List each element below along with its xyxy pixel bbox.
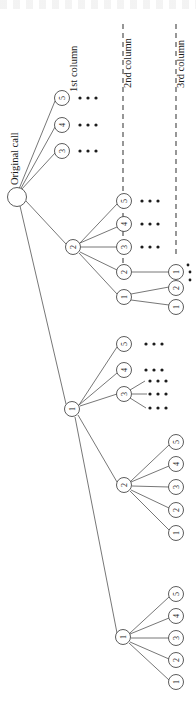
ellipsis-dot: [94, 96, 97, 99]
node-col2-lower-4[interactable]: 4: [117, 363, 132, 378]
node-label: 4: [120, 222, 129, 226]
edge-c1-1-to-c2b-2: [78, 415, 117, 482]
edge-c1-2-to-c2a-4: [80, 227, 117, 243]
ellipsis-dot: [164, 379, 167, 382]
node-label: 5: [58, 96, 67, 100]
ellipsis-dot: [160, 342, 163, 345]
node-label: 3: [120, 392, 129, 396]
edge-c2b-2-to-c3c-3: [132, 486, 169, 487]
node-col2-lower-2[interactable]: 2: [117, 478, 132, 493]
label-3rd-column: 3rd column: [175, 39, 186, 88]
page-header-strip: [0, 0, 196, 9]
edge-c2b-2-to-c3c-5: [131, 445, 169, 481]
ellipsis-dots: [78, 96, 191, 409]
node-col3-upper-1a[interactable]: 1: [169, 265, 184, 280]
node-col1-1[interactable]: 1: [65, 402, 80, 417]
node-label: 1: [172, 531, 181, 535]
edge-root-to-c1-2: [26, 201, 66, 244]
ellipsis-dot: [156, 406, 159, 409]
ellipsis-dot: [148, 379, 151, 382]
ellipsis-dot: [94, 149, 97, 152]
ellipsis-dot: [148, 245, 151, 248]
node-col1-2[interactable]: 2: [66, 240, 81, 255]
node-col1-4[interactable]: 4: [55, 118, 70, 133]
node-col3-mid-4[interactable]: 4: [169, 457, 184, 472]
ellipsis-dot: [144, 342, 147, 345]
ellipsis-dot: [148, 406, 151, 409]
node-col2-upper-1[interactable]: 1: [117, 290, 132, 305]
edges-from-col2-node-2: [130, 445, 169, 530]
node-circle[interactable]: [8, 188, 27, 207]
node-root[interactable]: [8, 188, 27, 207]
ellipsis-dot: [94, 123, 97, 126]
edge-c2b-2-to-c3c-4: [131, 466, 169, 482]
node-col3-bottom-4[interactable]: 4: [169, 609, 184, 624]
node-label: 5: [172, 592, 181, 596]
node-col2-upper-2[interactable]: 2: [117, 265, 132, 280]
ellipsis-dot: [86, 96, 89, 99]
recursion-tree-figure: 5 4 3 2 1 5: [0, 0, 196, 710]
node-label: 2: [172, 286, 181, 290]
ellipsis-dot: [189, 271, 192, 274]
ellipsis-dot: [187, 264, 190, 267]
ellipsis-dot: [160, 368, 163, 371]
ellipsis-dot: [86, 123, 89, 126]
node-col2-lower-3[interactable]: 3: [117, 387, 132, 402]
ellipsis-dot: [152, 368, 155, 371]
node-col3-bottom-3[interactable]: 3: [169, 631, 184, 646]
ellipsis-dot: [140, 222, 143, 225]
node-label: 3: [172, 636, 181, 640]
node-label: 5: [172, 440, 181, 444]
node-col3-mid-1[interactable]: 1: [169, 526, 184, 541]
edge-c2b-3-stub-down: [130, 398, 146, 408]
edge-c2b-1-to-c3d-4: [130, 618, 169, 634]
node-col1-3[interactable]: 3: [55, 144, 70, 159]
edges-from-col1-node-2: [79, 204, 117, 294]
ellipsis-dot: [156, 379, 159, 382]
ellipsis-dot: [156, 199, 159, 202]
node-label: 1: [172, 305, 181, 309]
node-label: 2: [120, 483, 129, 487]
edge-c2a-1-to-c3b-2: [131, 287, 169, 294]
ellipsis-dot: [156, 245, 159, 248]
node-col3-bottom-2[interactable]: 2: [169, 653, 184, 668]
edge-c1-1-to-c2b-5: [79, 347, 117, 405]
node-col3-mid-2[interactable]: 2: [169, 503, 184, 518]
edge-c2b-1-to-c3d-5: [130, 597, 169, 633]
node-label: 1: [172, 680, 181, 684]
ellipsis-dot: [156, 222, 159, 225]
edge-c2b-1-to-c3d-1: [129, 643, 169, 680]
node-col2-lower-5[interactable]: 5: [117, 337, 132, 352]
node-label: 1: [172, 270, 181, 274]
edge-c1-1-to-c2b-1: [75, 417, 117, 633]
node-col3-upper-2[interactable]: 2: [169, 281, 184, 296]
node-label: 1: [68, 407, 77, 411]
edge-c1-2-to-c2a-2: [80, 252, 117, 270]
node-col2-upper-3[interactable]: 3: [117, 240, 132, 255]
node-col2-lower-1[interactable]: 1: [116, 630, 131, 645]
edge-c2b-1-to-c3d-2: [130, 642, 169, 659]
node-label: 3: [120, 245, 129, 249]
node-label: 2: [120, 270, 129, 274]
node-col3-bottom-1[interactable]: 1: [169, 675, 184, 690]
edges-from-col1-node-1: [75, 347, 117, 633]
ellipsis-dot: [148, 199, 151, 202]
node-col3-mid-5[interactable]: 5: [169, 435, 184, 450]
node-col2-upper-5[interactable]: 5: [117, 194, 132, 209]
node-label: 4: [120, 368, 129, 372]
edge-c1-2-to-c2a-5: [80, 204, 117, 243]
node-col3-bottom-5[interactable]: 5: [169, 587, 184, 602]
node-col3-mid-3[interactable]: 3: [169, 480, 184, 495]
ellipsis-dot: [189, 279, 192, 282]
node-label: 4: [172, 614, 181, 618]
node-col3-upper-1b[interactable]: 1: [169, 300, 184, 315]
node-label: 4: [172, 462, 181, 466]
ellipsis-dot: [78, 149, 81, 152]
node-label: 3: [58, 149, 67, 153]
node-col2-upper-4[interactable]: 4: [117, 217, 132, 232]
node-label: 1: [120, 295, 129, 299]
tree-nodes: 5 4 3 2 1 5: [8, 91, 184, 690]
node-label: 5: [120, 199, 129, 203]
edge-c1-1-to-c2b-3: [80, 394, 117, 406]
edge-c2b-2-to-c3c-2: [131, 490, 169, 508]
